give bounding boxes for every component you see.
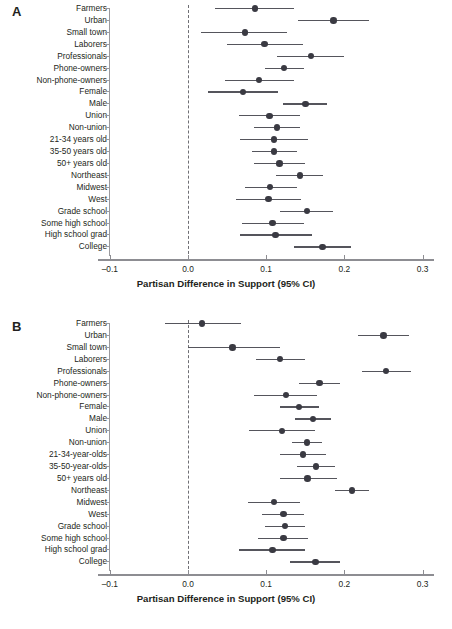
x-axis-tick (110, 255, 111, 259)
y-axis-tick (105, 347, 109, 348)
y-axis-tick (105, 406, 109, 407)
x-axis-tick (266, 255, 267, 259)
x-axis-tick-label: 0.3 (417, 579, 429, 589)
y-axis-tick (105, 466, 109, 467)
panel-b-axis-title: Partisan Difference in Support (95% CI) (0, 593, 452, 604)
x-axis-tick (423, 570, 424, 574)
point-estimate-marker (269, 220, 275, 226)
y-axis-tick (105, 91, 109, 92)
point-estimate-marker (276, 160, 282, 166)
y-axis-tick (105, 139, 109, 140)
y-axis-tick (105, 68, 109, 69)
y-axis-tick (105, 454, 109, 455)
x-axis-tick-label: 0.2 (339, 579, 351, 589)
point-estimate-marker (269, 547, 275, 553)
y-axis-tick (105, 478, 109, 479)
y-axis-tick (105, 502, 109, 503)
y-axis-tick (105, 199, 109, 200)
point-estimate-marker (274, 124, 280, 130)
point-estimate-marker (383, 368, 389, 374)
y-axis-tick (105, 490, 109, 491)
y-axis-tick (105, 163, 109, 164)
y-axis-tick (105, 175, 109, 176)
x-axis-tick-label: 0.1 (260, 579, 272, 589)
y-axis-tick (105, 371, 109, 372)
category-label: College (0, 555, 107, 568)
x-axis-tick-label: 0.3 (417, 264, 429, 274)
y-axis-tick (105, 538, 109, 539)
point-estimate-marker (304, 208, 310, 214)
y-axis-tick (105, 44, 109, 45)
point-estimate-marker (330, 17, 336, 23)
x-axis-tick-label: 0.0 (182, 579, 194, 589)
x-axis-tick (188, 255, 189, 259)
point-estimate-marker (300, 451, 306, 457)
point-estimate-marker (313, 463, 319, 469)
panel-a-axis-title: Partisan Difference in Support (95% CI) (0, 278, 452, 289)
point-estimate-marker (272, 232, 278, 238)
y-axis-tick (105, 20, 109, 21)
x-axis-line (98, 574, 434, 575)
point-estimate-marker (349, 487, 355, 493)
point-estimate-marker (271, 136, 277, 142)
panel-b: B FarmersUrbanSmall townLaborersProfessi… (0, 315, 452, 629)
point-estimate-marker (242, 29, 248, 35)
point-estimate-marker (277, 356, 283, 362)
y-axis-tick (105, 8, 109, 9)
y-axis-tick (105, 56, 109, 57)
point-estimate-marker (281, 65, 287, 71)
point-estimate-marker (271, 148, 277, 154)
y-axis-tick (105, 418, 109, 419)
y-axis-tick (105, 383, 109, 384)
y-axis-tick (105, 323, 109, 324)
y-axis-tick (105, 430, 109, 431)
y-axis-tick (105, 211, 109, 212)
point-estimate-marker (316, 380, 322, 386)
point-estimate-marker (280, 511, 286, 517)
x-axis-tick-label: 0.1 (260, 264, 272, 274)
panel-b-plot-area: FarmersUrbanSmall townLaborersProfession… (0, 315, 452, 590)
point-estimate-marker (261, 41, 267, 47)
point-estimate-marker (319, 244, 325, 250)
y-axis-tick (105, 561, 109, 562)
point-estimate-marker (266, 113, 272, 119)
point-estimate-marker (229, 344, 235, 350)
panel-a: A FarmersUrbanSmall townLaborersProfessi… (0, 0, 452, 314)
y-axis-tick (105, 32, 109, 33)
y-axis-tick (105, 223, 109, 224)
point-estimate-marker (252, 5, 258, 11)
point-estimate-marker (199, 320, 205, 326)
y-axis-tick (105, 151, 109, 152)
point-estimate-marker (265, 196, 271, 202)
y-axis-tick (105, 115, 109, 116)
x-axis-tick-label: 0.0 (182, 264, 194, 274)
y-axis-tick (105, 246, 109, 247)
point-estimate-marker (304, 439, 310, 445)
point-estimate-marker (280, 535, 286, 541)
y-axis-tick (105, 103, 109, 104)
y-axis-tick (105, 526, 109, 527)
x-axis-tick (188, 570, 189, 574)
estimate-row: College (0, 240, 452, 253)
x-axis-tick-label: 0.2 (339, 264, 351, 274)
x-axis-line (98, 259, 434, 260)
point-estimate-marker (283, 392, 289, 398)
x-axis-tick (344, 570, 345, 574)
category-label: College (0, 240, 107, 253)
y-axis-tick (105, 395, 109, 396)
y-axis-tick (105, 359, 109, 360)
y-axis-tick (105, 127, 109, 128)
point-estimate-marker (256, 77, 262, 83)
point-estimate-marker (297, 172, 303, 178)
y-axis-tick (105, 234, 109, 235)
point-estimate-marker (380, 332, 386, 338)
y-axis-tick (105, 442, 109, 443)
forest-plot-figure: A FarmersUrbanSmall townLaborersProfessi… (0, 0, 452, 629)
x-axis-tick-label: –0.1 (102, 579, 118, 589)
point-estimate-marker (279, 428, 285, 434)
point-estimate-marker (267, 184, 273, 190)
point-estimate-marker (282, 523, 288, 529)
y-axis-tick (105, 335, 109, 336)
x-axis-tick (110, 570, 111, 574)
panel-a-plot-area: FarmersUrbanSmall townLaborersProfession… (0, 0, 452, 275)
